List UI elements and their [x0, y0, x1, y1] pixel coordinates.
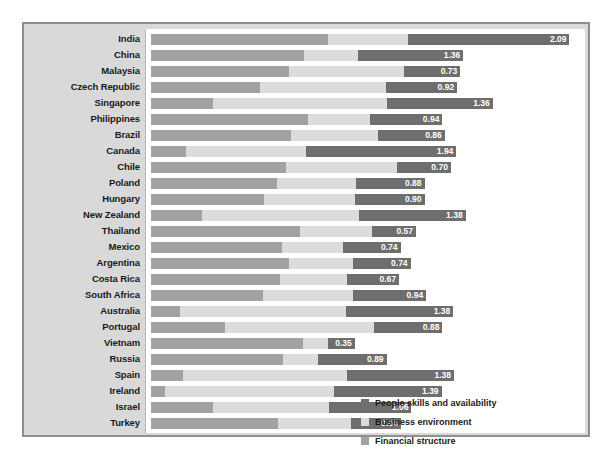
bar-segment-financial-structure [151, 82, 260, 93]
bar-rows: 2.091.360.730.921.360.940.861.940.700.88… [151, 31, 585, 431]
bar-row: 0.35 [151, 335, 585, 351]
bar-segment-people-skills: 0.94 [370, 114, 443, 125]
bar-segment-business-environment [289, 66, 404, 77]
stacked-bar: 0.88 [151, 322, 442, 333]
stacked-bar: 0.90 [151, 194, 425, 205]
bar-row: 0.70 [151, 159, 585, 175]
bar-value-label: 0.74 [391, 258, 411, 269]
category-label: Israel [24, 399, 140, 415]
bar-segment-business-environment [278, 418, 351, 429]
bar-row: 1.36 [151, 47, 585, 63]
bar-row: 0.57 [151, 223, 585, 239]
bar-segment-financial-structure [151, 178, 277, 189]
bar-segment-financial-structure [151, 322, 225, 333]
chart-legend: People skills and availabilityBusiness e… [361, 395, 566, 452]
bar-segment-financial-structure [151, 370, 183, 381]
bar-row: 0.86 [151, 127, 585, 143]
bar-value-label: 1.38 [434, 306, 454, 317]
stacked-bar: 0.67 [151, 274, 399, 285]
bar-segment-business-environment [186, 146, 306, 157]
bar-segment-people-skills: 0.74 [343, 242, 400, 253]
bar-value-label: 0.67 [379, 274, 399, 285]
category-label: South Africa [24, 287, 140, 303]
stacked-bar: 0.70 [151, 162, 451, 173]
bar-segment-financial-structure [151, 402, 213, 413]
bar-value-label: 0.35 [335, 338, 355, 349]
bar-value-label: 1.94 [437, 146, 457, 157]
category-label: Australia [24, 303, 140, 319]
bar-segment-people-skills: 1.94 [306, 146, 456, 157]
bar-row: 0.94 [151, 287, 585, 303]
bar-segment-people-skills: 1.38 [347, 370, 454, 381]
stacked-bar: 1.38 [151, 210, 466, 221]
bar-segment-business-environment [300, 226, 372, 237]
bar-segment-people-skills: 0.94 [353, 290, 426, 301]
stacked-bar: 1.38 [151, 306, 453, 317]
chart-frame: IndiaChinaMalaysiaCzech RepublicSingapor… [22, 22, 590, 437]
bar-segment-financial-structure [151, 34, 328, 45]
category-label: New Zealand [24, 207, 140, 223]
bar-row: 1.36 [151, 95, 585, 111]
bar-segment-financial-structure [151, 338, 303, 349]
legend-item: Financial structure [361, 433, 566, 449]
bar-value-label: 0.73 [441, 66, 461, 77]
stacked-bar: 0.57 [151, 226, 416, 237]
bar-value-label: 0.92 [438, 82, 458, 93]
bar-segment-people-skills: 0.90 [355, 194, 425, 205]
bar-segment-people-skills: 0.89 [318, 354, 387, 365]
bar-segment-people-skills: 0.67 [347, 274, 399, 285]
bar-value-label: 0.94 [423, 114, 443, 125]
category-label: Mexico [24, 239, 140, 255]
category-label: Chile [24, 159, 140, 175]
legend-item: Business environment [361, 414, 566, 430]
bar-segment-people-skills: 1.38 [359, 210, 466, 221]
stacked-bar: 0.94 [151, 290, 426, 301]
bar-row: 1.38 [151, 207, 585, 223]
bar-segment-business-environment [277, 178, 356, 189]
bar-segment-business-environment [303, 338, 328, 349]
category-label: Argentina [24, 255, 140, 271]
bar-segment-financial-structure [151, 242, 282, 253]
category-label: Russia [24, 351, 140, 367]
bar-segment-business-environment [283, 354, 318, 365]
stacked-bar: 0.86 [151, 130, 445, 141]
bar-value-label: 0.90 [405, 194, 425, 205]
bar-value-label: 0.89 [367, 354, 387, 365]
category-label: Brazil [24, 127, 140, 143]
bar-segment-financial-structure [151, 130, 291, 141]
bar-row: 0.90 [151, 191, 585, 207]
bar-segment-people-skills: 0.92 [386, 82, 457, 93]
bar-segment-people-skills: 0.88 [374, 322, 442, 333]
category-label: India [24, 31, 140, 47]
category-label: Hungary [24, 191, 140, 207]
bar-segment-business-environment [260, 82, 386, 93]
bar-segment-financial-structure [151, 194, 264, 205]
bar-segment-people-skills: 0.86 [378, 130, 445, 141]
bar-segment-people-skills: 2.09 [408, 34, 570, 45]
bar-segment-business-environment [183, 370, 347, 381]
bar-segment-business-environment [308, 114, 370, 125]
bar-segment-financial-structure [151, 66, 289, 77]
bar-value-label: 1.36 [444, 50, 464, 61]
bar-row: 1.94 [151, 143, 585, 159]
stacked-bar: 2.09 [151, 34, 570, 45]
bar-segment-financial-structure [151, 274, 280, 285]
bar-row: 0.67 [151, 271, 585, 287]
stacked-bar: 1.38 [151, 370, 454, 381]
bar-segment-business-environment [304, 50, 358, 61]
bar-segment-financial-structure [151, 306, 180, 317]
bar-row: 2.09 [151, 31, 585, 47]
category-label: Costa Rica [24, 271, 140, 287]
bar-row: 1.38 [151, 367, 585, 383]
bar-row: 0.88 [151, 319, 585, 335]
stacked-bar: 1.36 [151, 50, 463, 61]
category-label: Thailand [24, 223, 140, 239]
category-label: Malaysia [24, 63, 140, 79]
bar-segment-business-environment [213, 98, 387, 109]
stacked-bar: 0.92 [151, 82, 457, 93]
bar-segment-financial-structure [151, 162, 286, 173]
category-label: Singapore [24, 95, 140, 111]
legend-swatch-icon [361, 418, 369, 426]
legend-label: Business environment [375, 417, 472, 427]
bar-segment-people-skills: 0.70 [397, 162, 451, 173]
